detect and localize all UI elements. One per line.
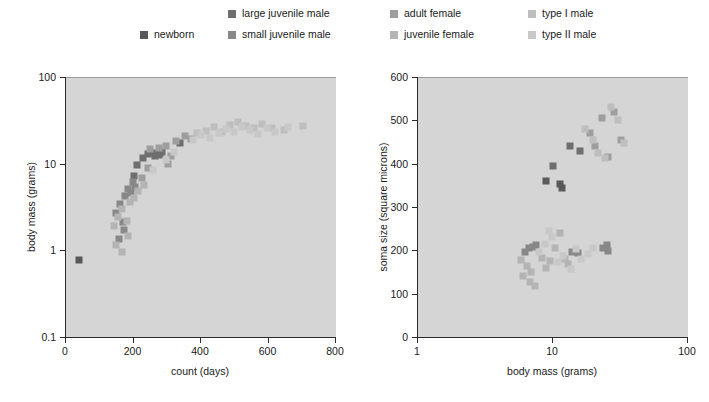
x-tick-label: 800 [326,345,344,357]
scatter-point [238,123,245,130]
scatter-point [605,248,612,255]
legend-item: large juvenile male [228,8,330,19]
scatter-point [75,256,82,263]
x-axis-title: count (days) [171,365,229,377]
scatter-point [589,245,596,252]
scatter-point [119,205,126,212]
scatter-point [550,162,557,169]
scatter-point [554,259,561,266]
legend-swatch-icon [140,31,148,39]
x-tick-label: 600 [259,345,277,357]
scatter-point [115,214,122,221]
scatter-point [557,230,564,237]
x-tick-label: 200 [124,345,142,357]
scatter-point [150,167,157,174]
scatter-point [589,136,596,143]
scatter-point [558,184,565,191]
scatter-point [113,242,120,249]
scatter-point [532,282,539,289]
scatter-point [581,126,588,133]
chart-panel-left: 0.11101000200400600800count (days)body m… [0,55,355,402]
scatter-point [541,241,548,248]
x-axis-title: body mass (grams) [507,365,597,377]
scatter-point [198,131,205,138]
scatter-point [620,139,627,146]
scatter-point [223,126,230,133]
figure-root: newbornlarge juvenile malesmall juvenile… [0,0,709,402]
scatter-point [246,127,253,134]
legend-swatch-icon [390,31,398,39]
x-tick [552,338,553,343]
y-axis-line [65,77,66,338]
y-axis-title: soma size (square microns) [377,143,389,272]
legend-swatch-icon [390,10,398,18]
legend-label: type II male [542,29,596,40]
scatter-point [155,144,162,151]
legend-item: newborn [140,29,194,40]
legend-label: adult female [404,8,461,19]
scatter-point [520,273,527,280]
scatter-point [111,223,118,230]
scatter-point [134,162,141,169]
x-tick-label: 400 [191,345,209,357]
legend: newbornlarge juvenile malesmall juvenile… [140,4,700,50]
scatter-point [577,147,584,154]
plot-area [65,77,336,338]
scatter-point [572,245,579,252]
scatter-point [138,175,145,182]
legend-item: adult female [390,8,461,19]
scatter-point [131,195,138,202]
y-tick [60,164,65,165]
scatter-point [271,129,278,136]
y-tick [60,77,65,78]
x-tick [65,338,66,343]
y-tick [60,250,65,251]
scatter-point [170,149,177,156]
legend-label: newborn [154,29,194,40]
scatter-point [567,265,574,272]
y-axis-title: body mass (grams) [25,162,37,252]
scatter-point [549,234,556,241]
legend-item: type II male [528,29,596,40]
y-tick [412,77,417,78]
scatter-point [599,115,606,122]
scatter-point [173,138,180,145]
y-axis-line [417,77,418,338]
y-tick-label: 500 [355,114,408,126]
scatter-point [255,130,262,137]
scatter-point [162,142,169,149]
legend-swatch-icon [228,10,236,18]
x-tick-label: 100 [678,345,696,357]
scatter-point [545,227,552,234]
plot-area [417,77,688,338]
scatter-point [119,249,126,256]
y-tick-label: 600 [355,71,408,83]
scatter-point [230,128,237,135]
scatter-point [542,264,549,271]
y-tick-label: 0.1 [0,331,56,343]
legend-label: type I male [542,8,593,19]
scatter-point [189,136,196,143]
scatter-point [551,245,558,252]
y-tick [412,207,417,208]
x-tick [133,338,134,343]
y-tick [412,120,417,121]
scatter-point [528,269,535,276]
legend-item: juvenile female [390,29,474,40]
scatter-point [163,157,170,164]
scatter-point [263,124,270,131]
scatter-point [535,249,542,256]
scatter-point [215,129,222,136]
legend-label: large juvenile male [242,8,330,19]
legend-item: type I male [528,8,593,19]
y-tick-label: 100 [355,288,408,300]
y-tick [412,294,417,295]
scatter-point [615,117,622,124]
x-tick [200,338,201,343]
scatter-point [601,155,608,162]
scatter-point [123,217,130,224]
y-tick [412,250,417,251]
scatter-point [546,257,553,264]
y-tick-label: 100 [0,71,56,83]
chart-panel-right: 0100200300400500600110100body mass (gram… [355,55,709,402]
